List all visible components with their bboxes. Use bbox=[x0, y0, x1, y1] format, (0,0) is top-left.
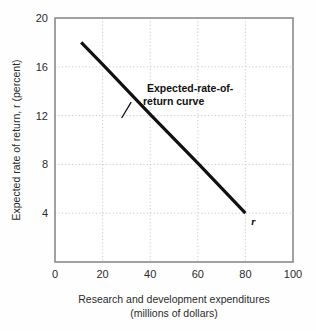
y-tick-8: 8 bbox=[42, 158, 48, 170]
x-axis-title-line1: Research and development expenditures bbox=[78, 293, 269, 305]
x-axis-title-line2: (millions of dollars) bbox=[130, 307, 218, 319]
y-tick-4: 4 bbox=[42, 207, 48, 219]
curve-label-line2: return curve bbox=[143, 95, 204, 107]
expected-rate-of-return-chart: 020406080100 48121620 Expected-rate-of- … bbox=[0, 0, 316, 331]
y-tick-20: 20 bbox=[36, 12, 48, 24]
x-tick-20: 20 bbox=[96, 268, 108, 280]
x-tick-80: 80 bbox=[239, 268, 251, 280]
x-tick-labels: 020406080100 bbox=[52, 268, 302, 280]
x-tick-40: 40 bbox=[144, 268, 156, 280]
x-tick-60: 60 bbox=[192, 268, 204, 280]
x-tick-0: 0 bbox=[52, 268, 58, 280]
x-tick-100: 100 bbox=[284, 268, 302, 280]
curve-label-line1: Expected-rate-of- bbox=[147, 82, 234, 94]
curve-symbol-label: r bbox=[251, 215, 256, 227]
y-axis-title: Expected rate of return, r (percent) bbox=[10, 59, 22, 220]
y-tick-labels: 48121620 bbox=[36, 12, 48, 219]
y-tick-16: 16 bbox=[36, 61, 48, 73]
chart-canvas: 020406080100 48121620 Expected-rate-of- … bbox=[0, 0, 316, 331]
y-tick-12: 12 bbox=[36, 110, 48, 122]
